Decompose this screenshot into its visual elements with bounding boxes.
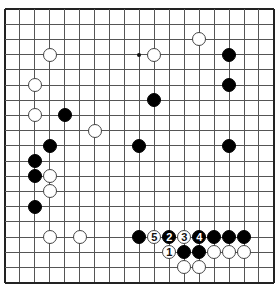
black-stone-move-4: 4 [192,230,206,244]
black-stone [132,230,146,244]
black-stone [43,139,57,153]
white-stone [147,48,161,62]
white-stone-move-1: 1 [162,245,176,259]
grid-line-horizontal [5,161,274,162]
black-stone-move-2: 2 [162,230,176,244]
black-stone [28,154,42,168]
black-stone [222,78,236,92]
white-stone [43,184,57,198]
black-stone [147,93,161,107]
white-stone-move-3: 3 [177,230,191,244]
grid-line-horizontal [5,221,274,222]
white-stone [177,260,191,274]
black-stone [28,200,42,214]
white-stone [88,124,102,138]
white-stone [43,48,57,62]
white-stone [237,245,251,259]
grid-line-horizontal [5,282,274,284]
black-stone [132,139,146,153]
white-stone [222,245,236,259]
grid-line-horizontal [5,267,274,268]
black-stone [177,245,191,259]
white-stone-move-5: 5 [147,230,161,244]
white-stone [207,245,221,259]
black-stone [207,230,221,244]
black-stone [58,108,72,122]
white-stone [192,32,206,46]
white-stone [28,78,42,92]
white-stone [43,230,57,244]
go-board[interactable]: 52341 [0,0,275,297]
white-stone [43,169,57,183]
white-stone [73,230,87,244]
black-stone [192,245,206,259]
black-stone [222,230,236,244]
black-stone [222,48,236,62]
white-stone [28,108,42,122]
black-stone [28,169,42,183]
grid-line-vertical [273,9,275,283]
white-stone [192,260,206,274]
black-stone [237,230,251,244]
black-stone [222,139,236,153]
grid-line-horizontal [5,206,274,207]
grid-line-vertical [258,9,259,283]
